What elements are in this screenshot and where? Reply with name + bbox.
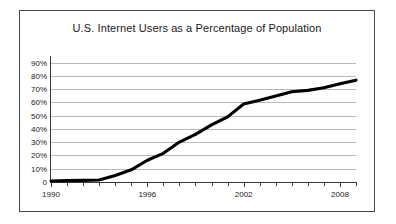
y-axis-tick-label: 80% (31, 71, 47, 80)
x-axis-tick (260, 182, 261, 186)
series-path-internet-users (51, 80, 356, 181)
plot-area: 90%80%70%60%50%40%30%20%10%0 19901996200… (51, 56, 356, 182)
x-axis-tick-label: 2002 (235, 190, 253, 199)
x-axis-tick (115, 182, 116, 186)
y-axis-tick-label: 30% (31, 138, 47, 147)
x-axis-tick (179, 182, 180, 186)
x-axis-tick (324, 182, 325, 186)
series-line-chart (51, 56, 356, 182)
x-axis-tick (83, 182, 84, 186)
x-axis-tick (276, 182, 277, 186)
y-axis-tick-label: 20% (31, 151, 47, 160)
x-axis-tick (308, 182, 309, 186)
y-axis-tick-label: 0 (43, 178, 47, 187)
x-axis-tick (212, 182, 213, 186)
x-axis-tick (99, 182, 100, 186)
x-axis-tick-label: 2008 (331, 190, 349, 199)
y-axis-tick-label: 50% (31, 111, 47, 120)
x-axis-tick (244, 182, 245, 187)
y-axis-tick-label: 60% (31, 98, 47, 107)
x-axis-tick (67, 182, 68, 186)
y-axis-tick-label: 40% (31, 124, 47, 133)
x-axis-tick (163, 182, 164, 186)
x-axis-tick (131, 182, 132, 186)
y-axis-tick-label: 90% (31, 58, 47, 67)
y-axis-tick-label: 10% (31, 164, 47, 173)
x-axis-tick (340, 182, 341, 187)
x-axis-tick-label: 1990 (42, 190, 60, 199)
x-axis-tick (51, 182, 52, 187)
x-axis-tick-label: 1996 (138, 190, 156, 199)
x-axis-tick (292, 182, 293, 186)
x-axis-tick (195, 182, 196, 186)
chart-title: U.S. Internet Users as a Percentage of P… (20, 22, 374, 34)
chart-figure: U.S. Internet Users as a Percentage of P… (19, 10, 375, 212)
x-axis-tick (147, 182, 148, 187)
x-axis-tick (228, 182, 229, 186)
y-axis-tick-label: 70% (31, 85, 47, 94)
x-axis-tick (356, 182, 357, 186)
